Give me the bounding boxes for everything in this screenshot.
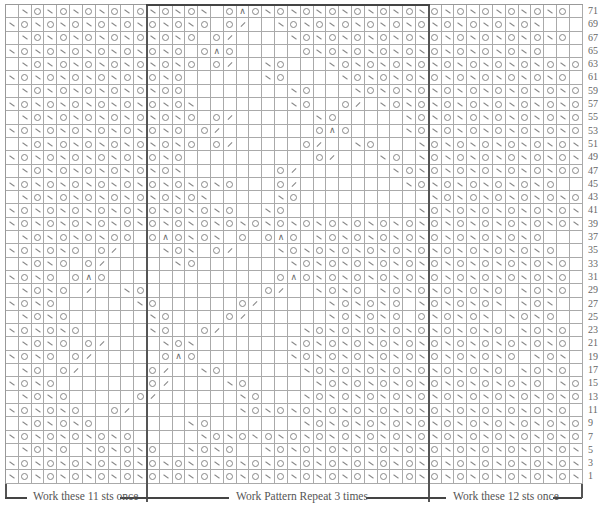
- ssk-icon: [547, 368, 552, 372]
- yarn-over-icon: [98, 21, 105, 28]
- chart-cell: [301, 364, 314, 377]
- ssk-icon: [150, 62, 155, 66]
- chart-cell: [19, 404, 32, 417]
- ssk-icon: [137, 22, 142, 26]
- ssk-icon: [470, 9, 475, 13]
- chart-cell: [339, 45, 352, 58]
- yarn-over-icon: [226, 313, 233, 320]
- lace-chart-grid: ∧∧∧∧∧∧∧∧: [5, 4, 583, 484]
- chart-cell: [416, 71, 429, 84]
- chart-cell: [262, 85, 275, 98]
- chart-cell: [314, 151, 327, 164]
- yarn-over-icon: [137, 8, 144, 15]
- ssk-icon: [137, 208, 142, 212]
- ssk-icon: [150, 89, 155, 93]
- ssk-icon: [86, 435, 91, 439]
- chart-cell: [314, 191, 327, 204]
- chart-cell: [249, 337, 262, 350]
- ssk-icon: [22, 36, 27, 40]
- chart-cell: [403, 377, 416, 390]
- chart-cell: [301, 470, 314, 483]
- chart-cell: [301, 244, 314, 257]
- chart-cell: [314, 58, 327, 71]
- chart-cell: [185, 98, 198, 111]
- chart-cell: [442, 337, 455, 350]
- yarn-over-icon: [98, 48, 105, 55]
- chart-cell: [224, 111, 237, 124]
- chart-cell: [70, 258, 83, 271]
- ssk-icon: [573, 155, 578, 159]
- yarn-over-icon: [354, 74, 361, 81]
- ssk-icon: [291, 262, 296, 266]
- yarn-over-icon: [572, 101, 579, 108]
- yarn-over-icon: [34, 61, 41, 68]
- chart-cell: [19, 324, 32, 337]
- ssk-icon: [419, 169, 424, 173]
- yarn-over-icon: [482, 220, 489, 227]
- yarn-over-icon: [124, 48, 131, 55]
- chart-cell: [262, 191, 275, 204]
- ssk-icon: [483, 62, 488, 66]
- chart-cell: [83, 71, 96, 84]
- chart-cell: [454, 391, 467, 404]
- chart-cell: [365, 32, 378, 45]
- ssk-icon: [60, 474, 65, 478]
- chart-cell: [403, 58, 416, 71]
- chart-cell: [454, 71, 467, 84]
- yarn-over-icon: [21, 460, 28, 467]
- yarn-over-icon: [559, 260, 566, 267]
- yarn-over-icon: [367, 141, 374, 148]
- ssk-icon: [547, 408, 552, 412]
- chart-cell: [365, 324, 378, 337]
- yarn-over-icon: [21, 21, 28, 28]
- chart-cell: [365, 444, 378, 457]
- chart-cell: [442, 351, 455, 364]
- chart-cell: [519, 417, 532, 430]
- chart-cell: [237, 324, 250, 337]
- chart-cell: [416, 218, 429, 231]
- chart-cell: [198, 218, 211, 231]
- yarn-over-icon: [72, 74, 79, 81]
- chart-cell: [544, 284, 557, 297]
- chart-cell: [275, 404, 288, 417]
- yarn-over-icon: [431, 473, 438, 480]
- yarn-over-icon: [418, 127, 425, 134]
- chart-cell: [454, 111, 467, 124]
- ssk-icon: [560, 89, 565, 93]
- chart-cell: [378, 417, 391, 430]
- chart-cell: [442, 111, 455, 124]
- chart-cell: [352, 377, 365, 390]
- ssk-icon: [445, 49, 450, 53]
- chart-cell: [109, 377, 122, 390]
- yarn-over-icon: [85, 8, 92, 15]
- chart-cell: [19, 151, 32, 164]
- chart-cell: [314, 337, 327, 350]
- chart-cell: ∧: [211, 45, 224, 58]
- yarn-over-icon: [444, 101, 451, 108]
- ssk-icon: [470, 408, 475, 412]
- chart-cell: [249, 191, 262, 204]
- chart-cell: [237, 311, 250, 324]
- chart-cell: [96, 58, 109, 71]
- chart-cell: [429, 284, 442, 297]
- ssk-icon: [483, 115, 488, 119]
- yarn-over-icon: [342, 393, 349, 400]
- chart-cell: [262, 470, 275, 483]
- chart-cell: [44, 284, 57, 297]
- chart-cell: [365, 231, 378, 244]
- ssk-icon: [458, 62, 463, 66]
- yarn-over-icon: [406, 407, 413, 414]
- yarn-over-icon: [380, 380, 387, 387]
- chart-cell: [493, 58, 506, 71]
- ssk-icon: [458, 182, 463, 186]
- yarn-over-icon: [329, 353, 336, 360]
- chart-cell: [480, 258, 493, 271]
- row-number: 55: [588, 110, 598, 123]
- chart-cell: [198, 244, 211, 257]
- chart-cell: [32, 32, 45, 45]
- yarn-over-icon: [149, 446, 156, 453]
- chart-cell: [147, 244, 160, 257]
- ssk-icon: [112, 222, 117, 226]
- chart-cell: [454, 470, 467, 483]
- chart-cell: [57, 431, 70, 444]
